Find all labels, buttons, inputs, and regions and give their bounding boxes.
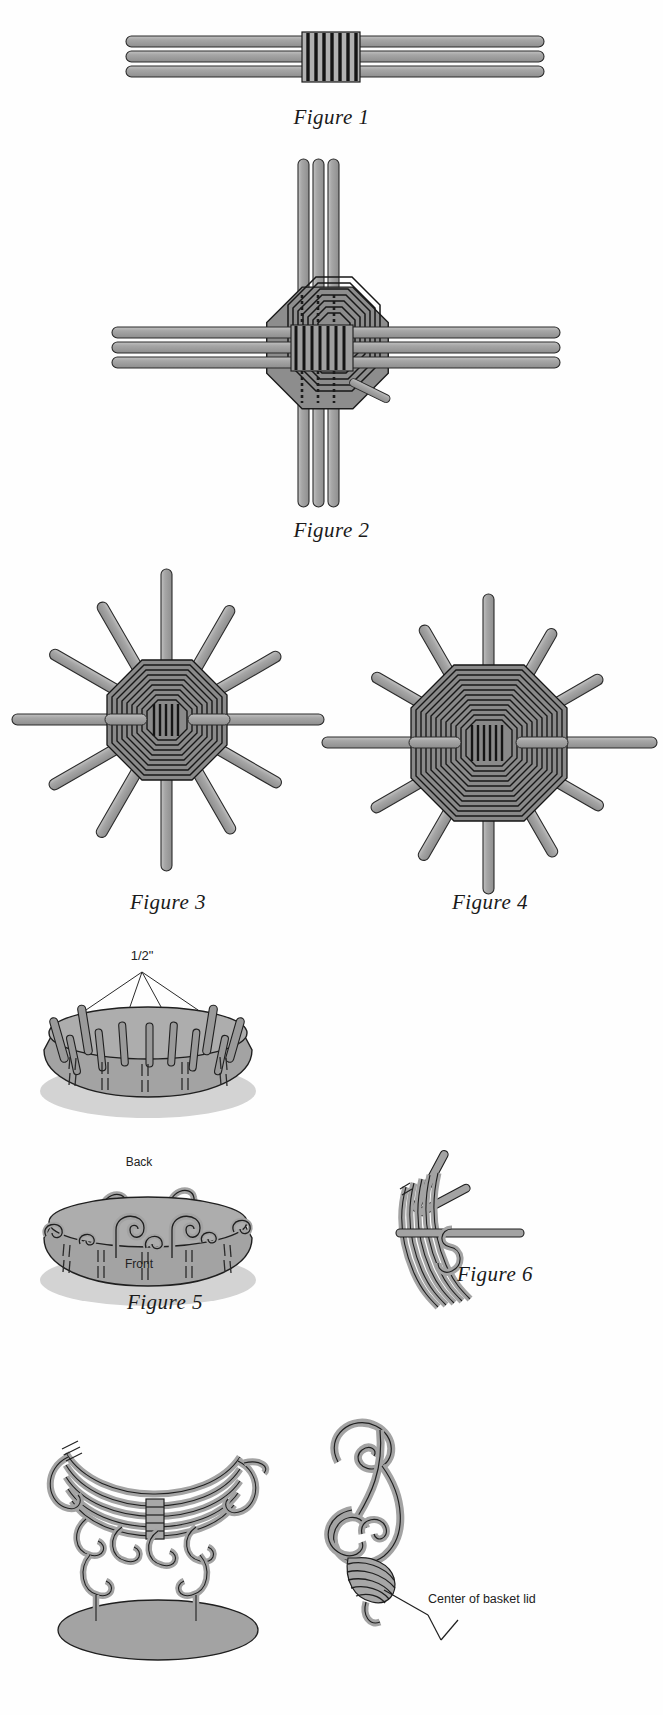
- label-back: Back: [104, 1155, 174, 1169]
- figure-5-upper-basket: [20, 965, 310, 1125]
- oval-base: [58, 1600, 258, 1660]
- caption-figure-4: Figure 4: [330, 890, 650, 915]
- center-wrap-band: [302, 32, 360, 82]
- figure-8-illustration: [300, 1400, 530, 1660]
- caption-figure-1: Figure 1: [0, 105, 663, 130]
- figure-2-illustration: [106, 155, 566, 510]
- caption-figure-2: Figure 2: [0, 518, 663, 543]
- figure-3-illustration: [8, 565, 328, 875]
- lid-coil-scroll: [328, 1423, 400, 1564]
- caption-figure-3: Figure 3: [8, 890, 328, 915]
- wrapped-coil-center: [347, 1558, 395, 1623]
- label-front: Front: [104, 1257, 174, 1271]
- label-center-of-basket-lid: Center of basket lid: [428, 1592, 536, 1606]
- center-wrap-band: [291, 325, 353, 371]
- caption-figure-5: Figure 5: [20, 1290, 310, 1315]
- caption-figure-6: Figure 6: [350, 1262, 640, 1287]
- figure-page: Figure 1: [0, 0, 663, 1715]
- measure-label-half-inch: 1/2": [112, 948, 172, 963]
- horizontal-weaver: [396, 1229, 524, 1237]
- figure-4-illustration: [320, 592, 658, 892]
- figure-7-illustration: [38, 1415, 278, 1665]
- figure-6-illustration: [380, 1145, 580, 1315]
- figure-1-illustration: [120, 28, 550, 90]
